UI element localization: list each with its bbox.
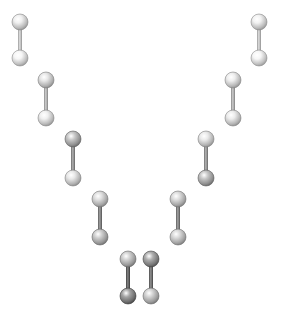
molecule-left-4 (92, 191, 108, 245)
atom-sphere-bottom (143, 288, 159, 304)
atom-sphere-top (225, 72, 241, 88)
atom-sphere-top (92, 191, 108, 207)
atom-sphere-bottom (92, 229, 108, 245)
atom-sphere-bottom (198, 170, 214, 186)
atom-sphere-top (120, 251, 136, 267)
atom-sphere-top (251, 14, 267, 30)
atom-sphere-top (65, 131, 81, 147)
atom-sphere-top (170, 191, 186, 207)
molecule-left-1 (12, 14, 28, 66)
molecule-right-5 (143, 251, 159, 304)
atom-sphere-bottom (251, 50, 267, 66)
atom-sphere-bottom (170, 229, 186, 245)
atom-sphere-top (12, 14, 28, 30)
atom-sphere-top (143, 251, 159, 267)
atom-sphere-top (198, 131, 214, 147)
atom-sphere-bottom (120, 288, 136, 304)
molecule-left-3 (65, 131, 81, 186)
molecule-right-3 (198, 131, 214, 186)
molecule-right-1 (251, 14, 267, 66)
molecule-left-5 (120, 251, 136, 304)
molecule-right-4 (170, 191, 186, 245)
molecule-group (12, 14, 267, 304)
atom-sphere-bottom (225, 110, 241, 126)
atom-sphere-bottom (65, 170, 81, 186)
molecule-diagram (0, 0, 283, 315)
atom-sphere-top (38, 72, 54, 88)
molecule-left-2 (38, 72, 54, 126)
molecule-right-2 (225, 72, 241, 126)
atom-sphere-bottom (12, 50, 28, 66)
atom-sphere-bottom (38, 110, 54, 126)
